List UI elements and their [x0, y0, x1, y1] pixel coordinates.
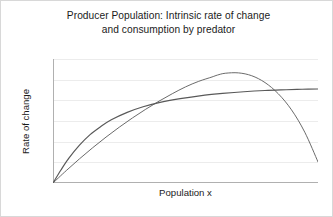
chart-canvas: [53, 59, 318, 183]
curve-1: [53, 73, 318, 183]
chart-figure: Producer Population: Intrinsic rate of c…: [0, 0, 333, 217]
chart-title-line-1: Producer Population: Intrinsic rate of c…: [31, 9, 306, 23]
curve-2: [53, 89, 318, 183]
chart-title-line-2: and consumption by predator: [31, 23, 306, 37]
y-axis-label-container: Rate of change: [18, 59, 34, 183]
x-axis-label: Population x: [53, 187, 318, 198]
y-axis-label: Rate of change: [21, 88, 32, 153]
data-curves: [53, 73, 318, 183]
chart-title: Producer Population: Intrinsic rate of c…: [31, 9, 306, 37]
plot-area: [53, 59, 318, 183]
